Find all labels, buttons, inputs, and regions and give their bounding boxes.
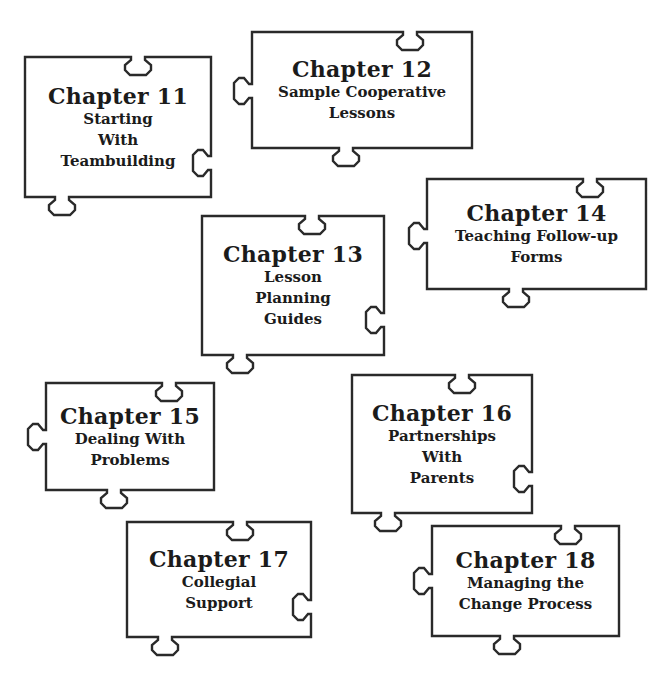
chapter-title-line: Change Process bbox=[459, 594, 592, 615]
puzzle-diagram: Chapter 11StartingWithTeambuildingChapte… bbox=[0, 0, 668, 684]
chapter-label: Chapter 18Managing theChange Process bbox=[432, 526, 619, 636]
chapter-title-line: Managing the bbox=[467, 573, 584, 594]
chapter-number: Chapter 18 bbox=[455, 547, 595, 573]
